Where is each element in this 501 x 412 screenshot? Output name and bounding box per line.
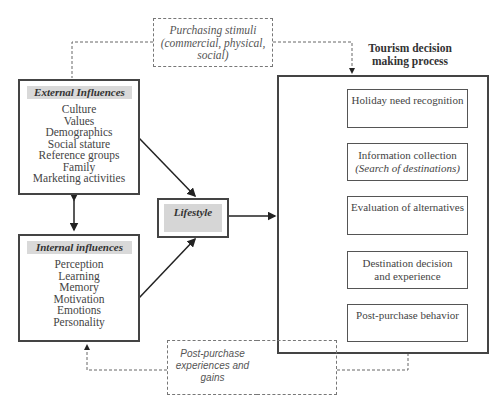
step-post-purchase-behavior: Post-purchase behavior [347,304,468,342]
lifestyle-box: Lifestyle [157,198,229,238]
process-title-line2: making process [360,55,460,68]
post-purchase-line2: experiences and [168,360,257,372]
step-evaluation-of-alternatives: Evaluation of alternatives [347,196,468,235]
list-item: Personality [20,317,138,329]
step-holiday-need-recognition: Holiday need recognition [347,89,468,128]
external-influences-title: External Influences [27,86,132,99]
list-item: Marketing activities [20,173,138,185]
process-title-line1: Tourism decision [360,42,460,55]
list-item: Memory [20,282,138,294]
list-item: Culture [20,104,138,116]
internal-influences-list: Perception Learning Memory Motivation Em… [20,259,138,328]
post-purchase-line3: gains [168,372,257,384]
step-information-collection: Information collection (Search of destin… [347,143,468,181]
list-item: Emotions [20,305,138,317]
purchasing-stimuli-line3: social) [154,49,272,62]
purchasing-stimuli-box: Purchasing stimuli (commercial, physical… [153,18,273,67]
purchasing-stimuli-line2: (commercial, physical, [154,37,272,50]
internal-influences-title: Internal influences [27,241,132,254]
list-item: Reference groups [20,150,138,162]
post-purchase-box: Post-purchase experiences and gains [167,340,257,395]
step-destination-decision: Destination decision and experience [347,251,468,289]
post-purchase-line1: Post-purchase [168,348,257,360]
post-purchase-box-edge [257,340,337,395]
process-title: Tourism decision making process [360,42,460,67]
external-influences-box: External Influences Culture Values Demog… [18,79,140,195]
list-item: Perception [20,259,138,271]
external-influences-list: Culture Values Demographics Social statu… [20,104,138,185]
purchasing-stimuli-line1: Purchasing stimuli [154,24,272,37]
list-item: Demographics [20,127,138,139]
internal-influences-box: Internal influences Perception Learning … [18,234,140,342]
lifestyle-title: Lifestyle [164,204,222,232]
